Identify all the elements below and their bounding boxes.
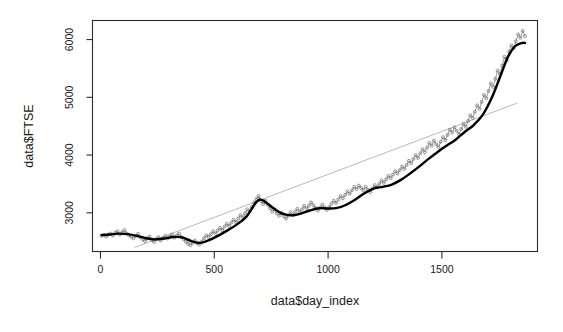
y-axis-title: data$FTSE	[22, 104, 36, 167]
x-tick-label: 1000	[316, 263, 340, 275]
x-tick-label: 0	[98, 263, 104, 275]
r-plot-canvas: 3000400050006000 050010001500 data$FTSE …	[0, 0, 563, 332]
x-tick-label: 1500	[430, 263, 454, 275]
x-tick-label: 500	[206, 263, 224, 275]
y-tick-label: 5000	[63, 85, 75, 109]
y-tick-label: 4000	[63, 143, 75, 167]
x-axis-title: data$day_index	[271, 294, 360, 308]
chart-svg: 3000400050006000 050010001500 data$FTSE …	[0, 0, 563, 332]
y-tick-label: 3000	[63, 201, 75, 225]
plot-background	[0, 0, 563, 332]
y-tick-label: 6000	[63, 28, 75, 52]
